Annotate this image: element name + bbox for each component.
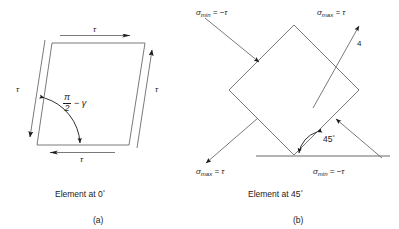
stress-arrow-sigma-min-top-left [205, 18, 259, 62]
sigma-subscript: max [322, 12, 333, 18]
minus-gamma: − γ [74, 98, 86, 108]
caption-b-degree: ° [300, 189, 302, 195]
sigma-value: = τ [214, 167, 224, 176]
shear-arrow-right [137, 50, 152, 148]
fraction-numerator: π [63, 93, 71, 102]
caption-b-text: Element at 45 [248, 189, 300, 199]
caption-panel-b: Element at 45° [248, 189, 303, 199]
fraction-denominator: 2 [64, 104, 71, 113]
figure-container: τ τ τ τ π 2 − γ Element at 0° (a) σmin =… [0, 0, 399, 229]
sigma-max-label-bottom-left: σmax = τ [196, 168, 224, 177]
angle-45-degree: ° [332, 134, 334, 140]
tau-label-left: τ [16, 86, 19, 94]
sigma-min-label-top-left: σmin = −τ [196, 9, 227, 18]
panel-letter-b: (b) [293, 215, 303, 225]
sigma-value: = τ [335, 8, 345, 17]
caption-a-degree: ° [103, 189, 105, 195]
sigma-subscript: max [201, 171, 212, 177]
panel-a-parallelogram [37, 43, 145, 145]
tau-label-top: τ [93, 26, 96, 34]
sigma-subscript: min [201, 12, 211, 18]
sigma-value: = −τ [330, 167, 345, 176]
tau-label-right: τ [155, 86, 158, 94]
tau-label-bottom: τ [80, 156, 83, 164]
stress-arrow-sigma-max-bottom-left [206, 118, 258, 163]
sigma-min-label-bottom-right: σmin = −τ [313, 168, 344, 177]
sigma-subscript: min [318, 171, 328, 177]
panel-letter-a: (a) [93, 215, 103, 225]
sigma-value: = −τ [213, 8, 228, 17]
fraction-pi-over-2: π 2 [63, 93, 71, 113]
point-label-4: 4 [357, 40, 361, 48]
angle-label-45: 45° [323, 134, 335, 144]
shear-arrow-left [30, 40, 45, 137]
angle-label-pi-over-2-minus-gamma: π 2 − γ [63, 93, 86, 113]
stress-arrow-sigma-min-bottom-right [336, 119, 382, 158]
caption-panel-a: Element at 0° [55, 189, 105, 199]
sigma-max-label-top-right: σmax = τ [317, 9, 345, 18]
stress-arrow-sigma-max-top-right [313, 26, 359, 108]
caption-a-text: Element at 0 [55, 189, 103, 199]
panel-b-diamond [229, 25, 359, 155]
